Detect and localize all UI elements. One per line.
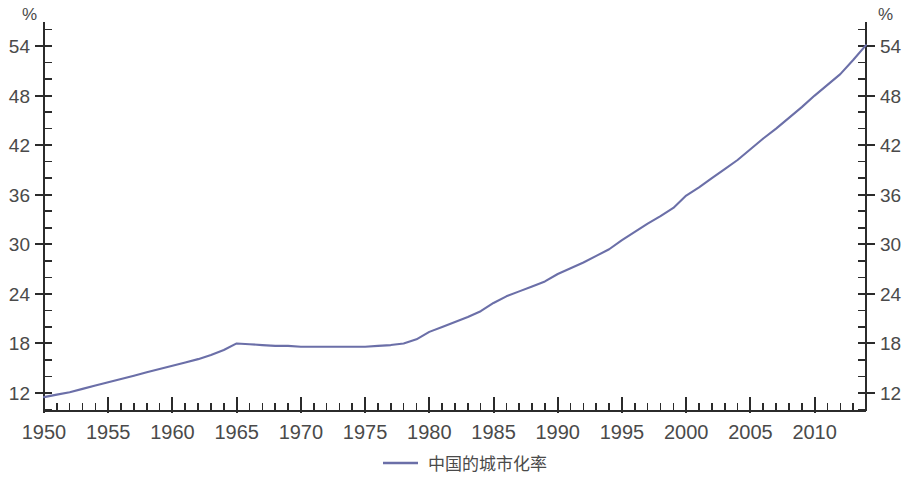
y-axis-left-tick-label: 12 <box>9 383 30 404</box>
x-axis-tick-label: 1985 <box>471 421 516 443</box>
y-axis-right-tick-label: 30 <box>880 234 901 255</box>
x-axis-tick-label: 1950 <box>22 421 67 443</box>
y-axis-left-tick-label: 48 <box>9 86 30 107</box>
x-axis-tick-label: 2010 <box>792 421 837 443</box>
x-axis-tick-label: 1990 <box>536 421 581 443</box>
y-axis-left-tick-label: 42 <box>9 135 30 156</box>
x-axis-tick-label: 1965 <box>214 421 259 443</box>
y-axis-right-tick-label: 54 <box>880 36 902 57</box>
series-line-0 <box>44 45 866 397</box>
data-series-group <box>44 45 866 397</box>
plot-area: 1218243036424854% 1218243036424854% 1950… <box>9 5 902 474</box>
x-axis-tick-label: 1970 <box>279 421 324 443</box>
chart-canvas: 1218243036424854% 1218243036424854% 1950… <box>0 0 902 479</box>
x-axis-tick-label: 1955 <box>86 421 131 443</box>
x-axis-tick-label: 1960 <box>150 421 195 443</box>
y-axis-left-tick-label: 30 <box>9 234 30 255</box>
y-axis-right-tick-label: 48 <box>880 86 901 107</box>
y-axis-left: 1218243036424854% <box>9 5 52 411</box>
x-axis-tick-label: 2005 <box>728 421 773 443</box>
y-axis-right-unit: % <box>878 5 893 24</box>
x-axis: 1950195519601965197019751980198519901995… <box>22 397 866 443</box>
y-axis-right-tick-label: 24 <box>880 284 902 305</box>
chart-legend: 中国的城市化率 <box>383 454 547 474</box>
legend-entry-text: 中国的城市化率 <box>428 454 547 474</box>
y-axis-right: 1218243036424854% <box>858 5 902 411</box>
urbanization-rate-chart: 1218243036424854% 1218243036424854% 1950… <box>0 0 902 479</box>
y-axis-left-tick-label: 36 <box>9 185 30 206</box>
y-axis-left-tick-label: 24 <box>9 284 31 305</box>
y-axis-right-tick-label: 42 <box>880 135 901 156</box>
x-axis-tick-label: 1995 <box>600 421 645 443</box>
y-axis-right-tick-label: 18 <box>880 333 901 354</box>
x-axis-tick-label: 1980 <box>407 421 452 443</box>
y-axis-right-tick-label: 12 <box>880 383 901 404</box>
y-axis-left-unit: % <box>22 5 37 24</box>
y-axis-left-tick-label: 18 <box>9 333 30 354</box>
x-axis-tick-label: 1975 <box>343 421 388 443</box>
y-axis-left-tick-label: 54 <box>9 36 31 57</box>
x-axis-tick-label: 2000 <box>664 421 709 443</box>
y-axis-right-tick-label: 36 <box>880 185 901 206</box>
